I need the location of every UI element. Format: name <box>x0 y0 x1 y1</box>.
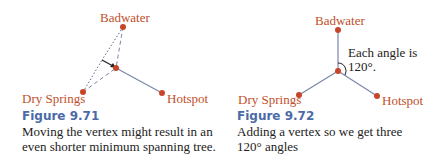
label-badwater: Badwater <box>315 14 365 28</box>
label-dry-springs: Dry Springs <box>238 93 301 107</box>
node-hotspot <box>374 93 380 99</box>
edge-hotspot <box>338 71 377 96</box>
figure-caption: Adding a vertex so we get three 120° ang… <box>237 124 436 154</box>
angle-annotation-line1: Each angle is <box>348 46 417 60</box>
caption-line: Adding a vertex so we get three <box>237 124 436 139</box>
label-hotspot: Hotspot <box>382 94 423 108</box>
node-steiner-vertex <box>335 68 341 74</box>
edge-dry-springs <box>299 71 338 95</box>
angle-annotation-line2: 120°. <box>348 60 376 74</box>
figure-title: Figure 9.72 <box>237 109 314 123</box>
caption-line: 120° angles <box>237 139 436 154</box>
figure-9-72: Badwater Dry Springs Hotspot Each angle … <box>0 0 436 163</box>
